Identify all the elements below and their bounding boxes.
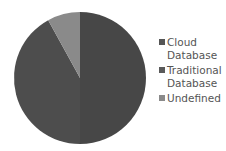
legend-swatch-icon [159, 95, 165, 101]
legend-swatch-icon [159, 67, 165, 73]
legend-label: Cloud Database [167, 36, 226, 61]
legend-label: Traditional Database [167, 64, 226, 89]
legend-label: Undefined [167, 92, 226, 105]
pie-slices [14, 12, 146, 144]
legend-item-traditional-database: Traditional Database [158, 64, 226, 89]
pie-slice-cloud-database [80, 12, 146, 144]
legend-item-cloud-database: Cloud Database [158, 36, 226, 61]
chart-legend: Cloud Database Traditional Database Unde… [158, 36, 226, 108]
legend-item-undefined: Undefined [158, 92, 226, 105]
legend-swatch-icon [159, 39, 165, 45]
